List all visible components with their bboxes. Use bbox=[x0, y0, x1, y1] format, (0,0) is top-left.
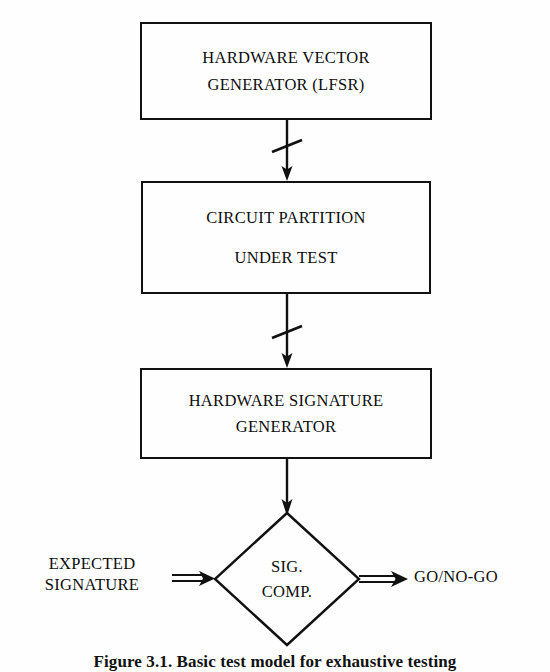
arrowhead-down-icon bbox=[282, 353, 293, 368]
connector-generator-to-partition bbox=[272, 120, 302, 181]
label-go-no-go: GO/NO-GO bbox=[414, 566, 544, 587]
block-label-line: GENERATOR bbox=[236, 418, 336, 435]
decision-node-label: SIG. COMP. bbox=[213, 512, 361, 646]
block-hardware-signature-generator: HARDWARE SIGNATURE GENERATOR bbox=[140, 368, 432, 459]
block-circuit-partition-under-test: CIRCUIT PARTITION UNDER TEST bbox=[141, 181, 431, 294]
bus-slash-icon bbox=[272, 326, 302, 338]
figure-caption: Figure 3.1. Basic test model for exhaust… bbox=[0, 652, 550, 672]
label-expected-signature: EXPECTED SIGNATURE bbox=[16, 553, 168, 595]
block-label-line: GENERATOR (LFSR) bbox=[207, 76, 364, 93]
arrowhead-right-icon bbox=[391, 571, 408, 587]
label-line: GO/NO-GO bbox=[414, 566, 544, 587]
decision-label-line: COMP. bbox=[262, 583, 313, 600]
label-line: EXPECTED bbox=[16, 553, 168, 574]
block-label-line: UNDER TEST bbox=[234, 249, 337, 266]
block-label-line: CIRCUIT PARTITION bbox=[206, 209, 366, 226]
connector-signature-to-comparator bbox=[282, 459, 293, 516]
connector-partition-to-signature bbox=[272, 293, 302, 368]
block-label-line: HARDWARE SIGNATURE bbox=[189, 392, 384, 409]
decision-label-line: SIG. bbox=[271, 558, 303, 575]
decision-node-signature-comparator: SIG. COMP. bbox=[213, 512, 361, 646]
bus-slash-icon bbox=[272, 140, 302, 152]
label-line: SIGNATURE bbox=[16, 574, 168, 595]
arrowhead-down-icon bbox=[282, 166, 293, 181]
connector-expected-to-comparator bbox=[172, 571, 215, 586]
connector-comparator-to-result bbox=[359, 571, 408, 587]
block-label-line: HARDWARE VECTOR bbox=[202, 49, 370, 66]
block-hardware-vector-generator: HARDWARE VECTOR GENERATOR (LFSR) bbox=[140, 22, 432, 120]
